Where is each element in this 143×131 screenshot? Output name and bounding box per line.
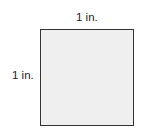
unit-square xyxy=(40,29,134,126)
left-side-length-label: 1 in. xyxy=(12,70,34,82)
top-side-length-label: 1 in. xyxy=(76,12,98,24)
